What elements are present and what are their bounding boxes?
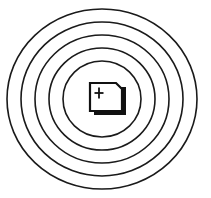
card-with-plus[interactable] (90, 83, 126, 115)
icon-canvas: Concentric rings surrounding a card with… (0, 0, 211, 198)
new-window-target-icon[interactable]: Concentric rings surrounding a card with… (0, 0, 211, 198)
card-face (90, 83, 122, 111)
